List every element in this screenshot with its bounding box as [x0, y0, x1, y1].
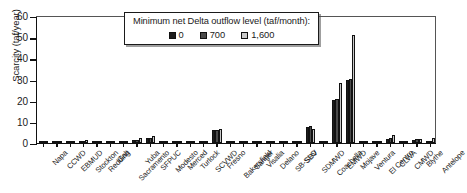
y-axis-tick-label: 20: [17, 97, 28, 107]
bar-group: [37, 16, 50, 143]
x-axis-tick: [230, 143, 231, 147]
legend-label: 700: [210, 31, 226, 40]
bar: [245, 141, 248, 143]
bar-group: [104, 16, 117, 143]
bar: [379, 141, 382, 143]
x-axis-tick: [70, 143, 71, 147]
bar-group: [317, 16, 330, 143]
bar: [405, 141, 408, 143]
bar: [165, 141, 168, 143]
x-axis-tick: [323, 143, 324, 147]
x-axis-tick: [390, 143, 391, 147]
y-axis-tick: [30, 144, 37, 145]
x-axis-tick: [256, 143, 257, 147]
legend-swatch: [200, 32, 207, 39]
x-axis-tick: [350, 143, 351, 147]
x-axis-tick: [96, 143, 97, 147]
bar-group: [424, 16, 437, 143]
bar-group: [50, 16, 63, 143]
x-axis-tick: [150, 143, 151, 147]
bar-group: [357, 16, 370, 143]
y-axis-tick: [30, 123, 37, 124]
x-axis-tick: [216, 143, 217, 147]
x-axis-tick: [110, 143, 111, 147]
bar: [325, 141, 328, 143]
bar: [192, 141, 195, 143]
y-axis-tick-label: 50: [17, 33, 28, 43]
x-axis-tick: [416, 143, 417, 147]
bar-group: [410, 16, 423, 143]
x-axis-tick: [136, 143, 137, 147]
x-axis-tick: [243, 143, 244, 147]
legend-title: Minimum net Delta outflow level (taf/mon…: [133, 16, 310, 28]
legend-label: 1,600: [251, 31, 274, 40]
x-axis-tick: [203, 143, 204, 147]
legend-swatch: [169, 32, 176, 39]
x-axis-tick: [363, 143, 364, 147]
x-axis-tick-label: Antelope: [441, 149, 467, 175]
legend-item: 0: [169, 31, 184, 40]
x-axis-tick: [296, 143, 297, 147]
bar: [285, 141, 288, 143]
bar: [259, 141, 262, 143]
bar: [59, 141, 62, 143]
x-axis-tick: [83, 143, 84, 147]
bar: [352, 35, 355, 143]
x-axis-tick: [270, 143, 271, 147]
bar-group: [397, 16, 410, 143]
bar: [99, 141, 102, 143]
bar-group: [330, 16, 343, 143]
bar: [272, 141, 275, 143]
x-axis-tick: [56, 143, 57, 147]
bar: [419, 139, 422, 143]
bar: [125, 141, 128, 143]
bar: [312, 129, 315, 143]
bar: [179, 141, 182, 143]
bar-group: [344, 16, 357, 143]
bar: [152, 136, 155, 143]
y-axis-tick: [30, 17, 37, 18]
bar: [339, 83, 342, 143]
x-axis-tick: [403, 143, 404, 147]
x-axis-tick: [190, 143, 191, 147]
y-axis-tick: [30, 102, 37, 103]
x-axis-tick: [43, 143, 44, 147]
y-axis-tick: [30, 38, 37, 39]
bar: [232, 141, 235, 143]
y-axis-tick-label: 60: [17, 12, 28, 22]
x-axis-tick: [283, 143, 284, 147]
y-axis-tick-label: 40: [17, 54, 28, 64]
y-axis-tick: [30, 59, 37, 60]
y-axis-tick: [30, 81, 37, 82]
bar: [392, 135, 395, 143]
bar: [72, 141, 75, 143]
chart-legend: Minimum net Delta outflow level (taf/mon…: [124, 12, 319, 45]
x-axis-tick: [430, 143, 431, 147]
bar: [205, 141, 208, 143]
y-axis-tick-label: 10: [17, 118, 28, 128]
x-axis-tick-label: SBV: [303, 149, 319, 165]
bar-group: [77, 16, 90, 143]
bar: [299, 141, 302, 143]
legend-items: 07001,600: [133, 31, 310, 40]
bar-group: [370, 16, 383, 143]
y-axis-tick-label: 0: [22, 139, 28, 149]
x-axis-tick: [336, 143, 337, 147]
legend-item: 700: [200, 31, 226, 40]
bar: [365, 141, 368, 143]
x-axis-tick: [123, 143, 124, 147]
bar: [139, 138, 142, 143]
x-axis-tick: [163, 143, 164, 147]
bar: [85, 140, 88, 143]
bar: [112, 141, 115, 143]
legend-label: 0: [179, 31, 184, 40]
legend-swatch: [241, 32, 248, 39]
bar-group: [384, 16, 397, 143]
y-axis-tick-label: 30: [17, 76, 28, 86]
bar: [45, 141, 48, 143]
legend-item: 1,600: [241, 31, 274, 40]
bar: [219, 129, 222, 143]
x-axis-tick: [376, 143, 377, 147]
x-axis-tick: [176, 143, 177, 147]
